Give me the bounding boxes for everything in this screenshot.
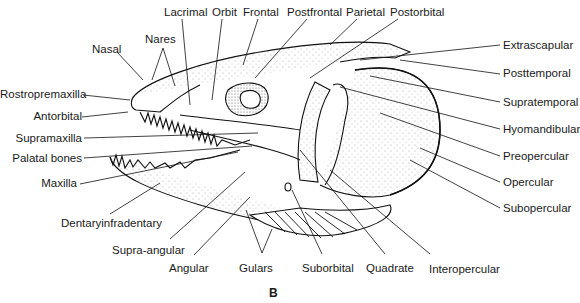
- label-supramaxilla: Supramaxilla: [0, 132, 82, 145]
- label-maxilla: Maxilla: [0, 177, 77, 190]
- label-nares: Nares: [145, 33, 176, 46]
- label-rostropremaxilla: Rostropremaxilla: [0, 88, 82, 101]
- label-interopercular: Interopercular: [429, 263, 500, 276]
- label-lacrimal: Lacrimal: [164, 6, 207, 19]
- label-postorbital: Postorbital: [390, 6, 444, 19]
- label-angular: Angular: [169, 262, 209, 275]
- label-nasal: Nasal: [92, 43, 121, 56]
- label-postfrontal: Postfrontal: [287, 6, 342, 19]
- label-supra-angular: Supra-angular: [112, 244, 185, 257]
- label-posttemporal: Posttemporal: [503, 67, 571, 80]
- label-extrascapular: Extrascapular: [503, 39, 573, 52]
- label-frontal: Frontal: [243, 6, 279, 19]
- label-parietal: Parietal: [346, 6, 385, 19]
- label-antorbital: Antorbital: [0, 110, 82, 123]
- label-palatal-bones: Palatal bones: [0, 152, 82, 165]
- label-gulars: Gulars: [239, 262, 273, 275]
- label-subopercular: Subopercular: [503, 202, 571, 215]
- label-opercular: Opercular: [503, 176, 554, 189]
- label-dentaryinfradentary: Dentaryinfradentary: [61, 217, 162, 230]
- label-orbit: Orbit: [212, 6, 237, 19]
- panel-label: B: [269, 286, 278, 300]
- label-supratemporal: Supratemporal: [503, 96, 578, 109]
- skull-outline: [110, 42, 440, 238]
- label-quadrate: Quadrate: [366, 262, 414, 275]
- label-suborbital: Suborbital: [302, 262, 354, 275]
- label-preopercular: Preopercular: [503, 150, 569, 163]
- label-hyomandibular: Hyomandibular: [503, 123, 580, 136]
